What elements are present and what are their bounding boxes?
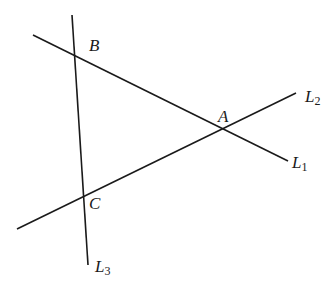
point-label-b: B [89, 37, 99, 54]
line-l3 [72, 15, 88, 265]
line-label-l1: L1 [292, 154, 307, 173]
line-l2 [17, 93, 296, 229]
point-label-a: A [218, 108, 228, 125]
triangle-diagram: B A C L2 L1 L3 [0, 0, 333, 293]
line-l1 [33, 35, 288, 161]
line-label-l3: L3 [95, 258, 110, 277]
point-label-c: C [89, 195, 100, 212]
line-label-l2: L2 [305, 88, 320, 107]
lines-canvas [0, 0, 333, 293]
